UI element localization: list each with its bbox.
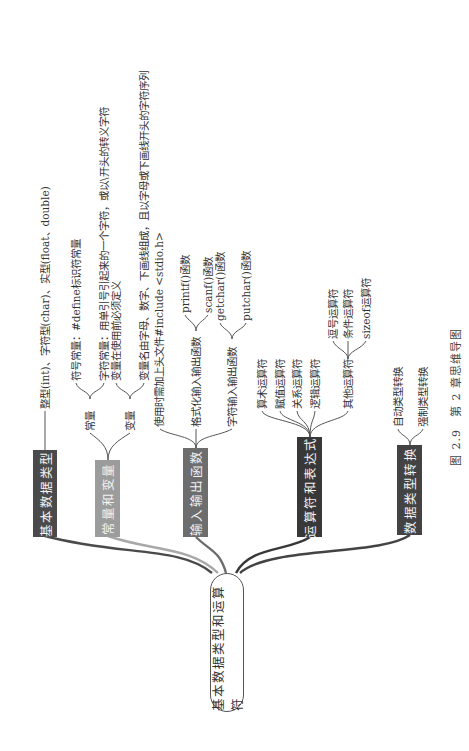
leaf-explicit-conversion: 强制类型转换 xyxy=(417,367,429,427)
branch-label: 输入输出函数 xyxy=(186,449,205,536)
leaf-label: 变量在使用前必须定义 xyxy=(110,281,122,381)
leaf-label: 赋值运算符 xyxy=(274,359,286,409)
leaf-label: putchar()函数 xyxy=(240,251,252,321)
leaf-variable-naming: 变量名由字母、数字、下画线组成，且以字母或下画线开头的字符序列 xyxy=(138,71,150,381)
leaf-label: 关系运算符 xyxy=(291,359,303,409)
leaf-arithmetic-op: 算术运算符 xyxy=(256,359,268,409)
leaf-label: printf()函数 xyxy=(179,255,191,313)
leaf-label: 字符输入输出函数 xyxy=(226,347,238,427)
leaf-implicit-conversion: 自动类型转换 xyxy=(392,367,404,427)
leaf-basic-types: 整型(int)、字符型(char)、实型(float、double) xyxy=(39,186,51,409)
leaf-getchar: getchar()函数 xyxy=(214,252,226,321)
leaf-label: 逻辑运算符 xyxy=(309,359,321,409)
branch-label: 数据类型转换 xyxy=(400,447,419,534)
leaf-label: sizeof运算符 xyxy=(360,278,372,339)
leaf-label: 整型(int)、字符型(char)、实型(float、double) xyxy=(39,186,51,409)
leaf-label: 强制类型转换 xyxy=(417,367,429,427)
central-topic-label: 基本数据类型和运算符 xyxy=(208,574,246,711)
mind-map-canvas: 基本数据类型和运算符 基本数据类型 整型(int)、字符型(char)、实型(f… xyxy=(0,0,469,751)
leaf-logical-op: 逻辑运算符 xyxy=(309,359,321,409)
leaf-label: 逗号运算符 xyxy=(327,289,339,339)
leaf-label: 变量名由字母、数字、下画线组成，且以字母或下画线开头的字符序列 xyxy=(138,71,150,381)
subnode-other-ops: 其他运算符 xyxy=(342,359,354,409)
subnode-variables: 变量 xyxy=(124,411,136,431)
leaf-label: 其他运算符 xyxy=(342,359,354,409)
leaf-relational-op: 关系运算符 xyxy=(291,359,303,409)
leaf-scanf: scanf()函数 xyxy=(202,257,214,313)
figure-caption: 图 2.9 第 2 章思维导图 xyxy=(447,328,463,466)
leaf-assignment-op: 赋值运算符 xyxy=(274,359,286,409)
leaf-printf: printf()函数 xyxy=(179,255,191,313)
caption-text: 图 2.9 第 2 章思维导图 xyxy=(450,328,463,466)
branch-label: 常量和变量 xyxy=(98,462,117,535)
leaf-label: 变量 xyxy=(124,411,136,431)
leaf-comma-op: 逗号运算符 xyxy=(327,289,339,339)
branch-constants-variables[interactable]: 常量和变量 xyxy=(95,460,120,537)
branch-label: 运算符和表达式 xyxy=(300,436,319,538)
branch-label: 基本数据类型 xyxy=(36,450,55,537)
subnode-constants: 常量 xyxy=(84,411,96,431)
subnode-formatted-io: 格式化输入输出函数 xyxy=(190,337,202,427)
leaf-label: 条件运算符 xyxy=(342,289,354,339)
leaf-label: 格式化输入输出函数 xyxy=(190,337,202,427)
leaf-include-header: 使用时需加上头文件#include <stdio.h> xyxy=(153,232,165,427)
central-topic-node[interactable]: 基本数据类型和运算符 xyxy=(210,573,244,712)
branch-operators-expressions[interactable]: 运算符和表达式 xyxy=(297,437,322,537)
branch-type-conversion[interactable]: 数据类型转换 xyxy=(397,445,422,535)
leaf-label: getchar()函数 xyxy=(214,252,226,321)
leaf-putchar: putchar()函数 xyxy=(240,251,252,321)
leaf-label: 算术运算符 xyxy=(256,359,268,409)
leaf-label: 自动类型转换 xyxy=(392,367,404,427)
leaf-variable-define: 变量在使用前必须定义 xyxy=(110,281,122,381)
branch-basic-data-types[interactable]: 基本数据类型 xyxy=(33,450,57,537)
leaf-sizeof-op: sizeof运算符 xyxy=(360,278,372,339)
leaf-label: scanf()函数 xyxy=(202,257,214,313)
leaf-conditional-op: 条件运算符 xyxy=(342,289,354,339)
leaf-label: 符号常量：#define标识符常量 xyxy=(70,239,82,381)
leaf-label: 字符常量：用单引号引起来的一个字符，或以\开头的转义字符 xyxy=(98,107,110,381)
leaf-char-constant: 字符常量：用单引号引起来的一个字符，或以\开头的转义字符 xyxy=(98,107,110,381)
subnode-char-io: 字符输入输出函数 xyxy=(226,347,238,427)
leaf-label: 常量 xyxy=(84,411,96,431)
leaf-symbolic-constant: 符号常量：#define标识符常量 xyxy=(70,239,82,381)
branch-io-functions[interactable]: 输入输出函数 xyxy=(183,448,208,537)
leaf-label: 使用时需加上头文件#include <stdio.h> xyxy=(153,232,165,427)
